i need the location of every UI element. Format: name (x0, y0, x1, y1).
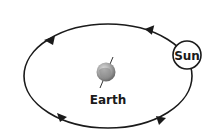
orbit-arrow-bottom-right (156, 116, 166, 125)
earth-label: Earth (90, 93, 127, 107)
orbit-svg: Sun Earth (0, 0, 210, 139)
orbit-arrow-top-left (44, 36, 55, 45)
earth: Earth (90, 57, 127, 107)
sun-label: Sun (174, 49, 200, 63)
orbit-arrow-top-right (144, 25, 155, 36)
sun: Sun (173, 41, 201, 69)
orbit-diagram: Sun Earth (0, 0, 210, 139)
